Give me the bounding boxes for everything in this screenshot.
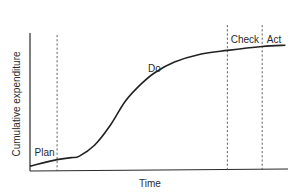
y-axis-label: Cumulative expenditure [11, 51, 22, 156]
phase-label-plan: Plan [35, 147, 55, 158]
x-axis-label: Time [139, 178, 161, 189]
pdca-expenditure-chart: PlanDoCheckAct Time Cumulative expenditu… [0, 0, 302, 192]
phase-label-check: Check [231, 34, 260, 45]
phase-label-do: Do [148, 63, 161, 74]
x-axis [30, 169, 288, 171]
phase-label-act: Act [267, 34, 282, 45]
